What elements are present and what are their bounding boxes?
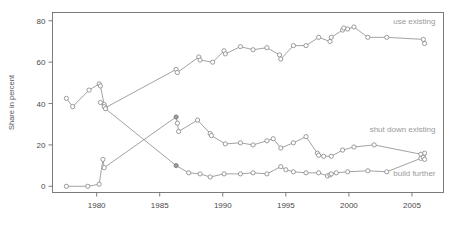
data-point [71,105,75,109]
data-point [175,121,179,125]
data-point [87,88,91,92]
data-point [101,157,105,161]
data-point [322,154,326,158]
data-point [291,141,295,145]
data-point [284,168,288,172]
data-point [317,35,321,39]
data-point [97,182,101,186]
x-tick-label: 1985 [151,201,169,210]
data-point [223,142,227,146]
series-label-use-existing: use existing [393,17,435,26]
data-point [279,165,283,169]
data-point [265,139,269,143]
data-point [223,52,227,56]
chart-container: 020406080198019851990199520002005Share i… [0,0,459,226]
data-point [103,107,107,111]
data-point [187,171,191,175]
data-point [421,37,425,41]
data-point [238,172,242,176]
data-point [64,184,68,188]
series-line [66,27,424,108]
data-point [238,141,242,145]
data-point [86,184,90,188]
data-point [329,35,333,39]
data-point [422,157,426,161]
series-shut-down-existing [98,100,426,179]
data-point [251,48,255,52]
y-tick-label: 80 [37,17,46,26]
x-tick-label: 2000 [340,201,358,210]
data-point [279,146,283,150]
data-point [346,170,350,174]
data-point [175,70,179,74]
data-point [304,135,308,139]
series-line [100,103,424,177]
data-point [352,25,356,29]
line-chart: 020406080198019851990199520002005Share i… [0,0,459,226]
y-tick-label: 20 [37,141,46,150]
x-tick-label: 1995 [277,201,295,210]
data-point [304,171,308,175]
data-point [304,44,308,48]
data-point [352,145,356,149]
data-point [277,53,281,57]
plot-frame [53,13,444,193]
data-point [251,143,255,147]
data-point [98,84,102,88]
y-tick-label: 40 [37,100,46,109]
data-point [209,134,213,138]
data-point [174,164,178,168]
series-use-existing [64,25,426,110]
data-point [251,171,255,175]
data-point [422,41,426,45]
data-point [291,170,295,174]
data-point [98,100,102,104]
data-point [279,57,283,61]
data-point [211,60,215,64]
series-label-build-further: build further [393,169,436,178]
series-label-shut-down-existing: shut down existing [370,125,436,134]
y-tick-label: 60 [37,58,46,67]
data-point [317,153,321,157]
x-tick-label: 1980 [88,201,106,210]
data-point [265,46,269,50]
data-point [346,27,350,31]
data-point [385,170,389,174]
data-point [329,172,333,176]
data-point [317,171,321,175]
x-tick-label: 2005 [403,201,421,210]
data-point [222,172,226,176]
x-tick-label: 1990 [214,201,232,210]
data-point [64,96,68,100]
data-point [366,169,370,173]
data-point [341,148,345,152]
data-point [198,58,202,62]
data-point [198,172,202,176]
data-point [265,172,269,176]
data-point [334,171,338,175]
data-point [195,118,199,122]
data-point [329,154,333,158]
data-point [385,35,389,39]
data-point [271,137,275,141]
y-axis-label: Share in percent [7,74,16,130]
data-point [291,44,295,48]
data-point [208,175,212,179]
data-point [328,39,332,43]
text-labels: 020406080198019851990199520002005Share i… [7,17,436,210]
data-point [177,129,181,133]
data-point [372,143,376,147]
y-tick-label: 0 [41,182,46,191]
series-group [64,25,426,189]
data-point [102,166,106,170]
data-point [366,35,370,39]
data-point [174,115,178,119]
data-point [238,45,242,49]
